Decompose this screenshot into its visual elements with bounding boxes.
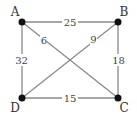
weighted-graph: 25 18 15 32 6 9 A B C D <box>0 0 137 116</box>
node-b <box>115 19 122 26</box>
weight-b-d: 9 <box>90 34 96 45</box>
weight-a-b: 25 <box>64 17 77 28</box>
node-label-c: C <box>119 101 128 115</box>
node-label-a: A <box>10 5 20 19</box>
weight-d-a: 32 <box>15 55 28 66</box>
weight-b-c: 18 <box>112 55 125 66</box>
node-a <box>19 19 26 26</box>
node-label-b: B <box>120 5 129 19</box>
weight-c-d: 15 <box>64 93 77 104</box>
weight-a-c: 6 <box>41 35 47 46</box>
node-label-d: D <box>10 101 20 115</box>
